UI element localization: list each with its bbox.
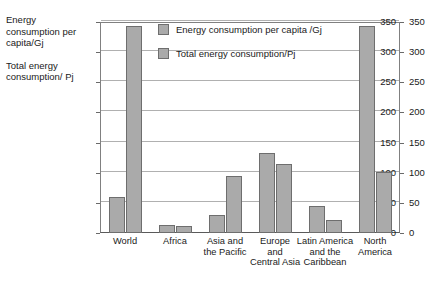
y-axis-caption-total: Total energy consumption/ Pj [6, 60, 80, 83]
y-tick-label-right-200: 200 [409, 107, 425, 117]
y-tick-label-right-300: 300 [409, 47, 425, 57]
bar-per-capita-0 [109, 197, 125, 233]
y-tick-mark-right-200 [400, 112, 404, 113]
y-tick-mark-right-250 [400, 82, 404, 83]
y-tick-mark-right-350 [400, 22, 404, 23]
legend-label-total: Total energy consumption/Pj [176, 49, 295, 59]
bar-per-capita-2 [209, 215, 225, 233]
y-tick-label-right-350: 350 [409, 17, 425, 27]
y-tick-mark-right-150 [400, 143, 404, 144]
bar-total-5 [376, 172, 392, 233]
x-axis-label-5: NorthAmerica [344, 236, 406, 257]
y-tick-label-right-250: 250 [409, 77, 425, 87]
y-tick-label-right-0: 0 [409, 228, 414, 238]
y-tick-label-right-100: 100 [409, 168, 425, 178]
energy-consumption-bar-chart: Energy consumption per capita/Gj Total e… [0, 0, 445, 292]
bar-total-1 [176, 226, 192, 233]
bar-total-2 [226, 176, 242, 233]
legend-swatch-per-capita-icon [158, 24, 169, 35]
legend-swatch-total-icon [158, 48, 169, 59]
y-tick-mark-right-100 [400, 173, 404, 174]
y-tick-label-right-50: 50 [409, 198, 420, 208]
bar-total-3 [276, 164, 292, 233]
legend-item-per-capita: Energy consumption per capita /Gj [158, 24, 322, 35]
y-tick-label-right-150: 150 [409, 138, 425, 148]
bar-total-0 [126, 26, 142, 233]
y-axis-caption-per-capita: Energy consumption per capita/Gj [6, 14, 80, 49]
chart-legend: Energy consumption per capita /Gj Total … [158, 24, 322, 59]
y-axis-captions: Energy consumption per capita/Gj Total e… [6, 14, 80, 94]
y-tick-mark-right-300 [400, 52, 404, 53]
y-tick-mark-right-0 [400, 233, 404, 234]
legend-label-per-capita: Energy consumption per capita /Gj [176, 25, 322, 35]
y-tick-mark-left-0 [96, 233, 100, 234]
bar-per-capita-1 [159, 225, 175, 233]
legend-item-total: Total energy consumption/Pj [158, 48, 322, 59]
bar-per-capita-3 [259, 153, 275, 233]
gridline-350 [101, 20, 399, 21]
y-tick-mark-right-50 [400, 203, 404, 204]
bar-total-4 [326, 220, 342, 233]
bar-per-capita-4 [309, 206, 325, 233]
bar-per-capita-5 [359, 26, 375, 233]
